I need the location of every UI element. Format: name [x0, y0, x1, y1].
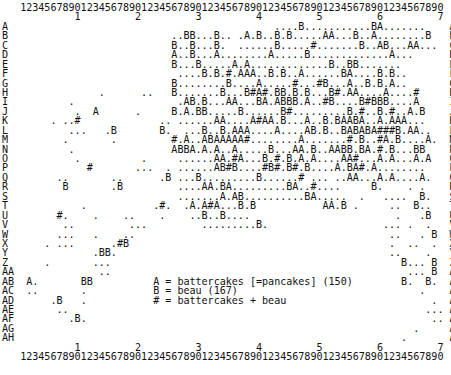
map-rows: A ....B...........BA....... AB ..BB...B.…	[2, 22, 451, 343]
row-label-right: AH	[443, 332, 451, 343]
ascii-map-grid: 1234567890123456789012345678901234567890…	[2, 3, 451, 362]
bottom-ruler-digits: 1234567890123456789012345678901234567890…	[2, 352, 451, 361]
